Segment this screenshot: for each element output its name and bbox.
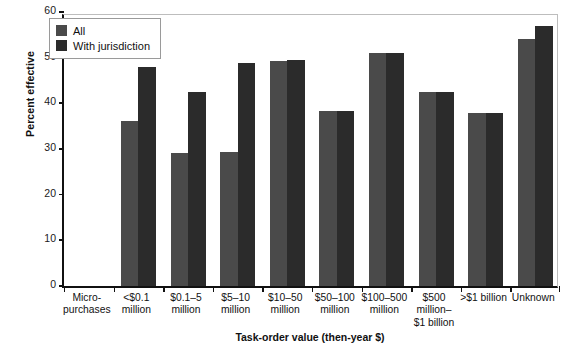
bar-group bbox=[171, 15, 206, 286]
bar-all bbox=[121, 121, 139, 286]
y-axis-tick-label: 10 bbox=[26, 232, 56, 244]
bar-group bbox=[220, 15, 255, 286]
bar-group bbox=[419, 15, 454, 286]
x-axis-title: Task-order value (then-year $) bbox=[62, 331, 558, 343]
y-axis-tick-mark bbox=[59, 11, 64, 13]
bar-all bbox=[220, 152, 238, 286]
y-axis-tick-mark bbox=[59, 148, 64, 150]
bar-all bbox=[270, 61, 288, 286]
legend-item-all: All bbox=[56, 23, 150, 38]
legend-label-all: All bbox=[73, 25, 85, 37]
bar-all bbox=[369, 53, 387, 286]
x-axis-tick-label: Unknown bbox=[502, 292, 564, 304]
legend-label-with-jurisdiction: With jurisdiction bbox=[73, 40, 150, 52]
bar-with-jurisdiction bbox=[436, 92, 454, 286]
chart-legend: All With jurisdiction bbox=[49, 18, 161, 59]
bar-with-jurisdiction bbox=[138, 67, 156, 286]
legend-swatch-all bbox=[56, 25, 67, 36]
bar-with-jurisdiction bbox=[188, 92, 206, 286]
bar-group bbox=[369, 15, 404, 286]
bar-with-jurisdiction bbox=[337, 111, 355, 286]
bar-all bbox=[171, 153, 189, 286]
y-axis-tick-mark bbox=[59, 194, 64, 196]
bar-all bbox=[419, 92, 437, 286]
bar-all bbox=[319, 111, 337, 286]
y-axis-tick-label: 60 bbox=[26, 4, 56, 16]
y-axis-tick-label: 40 bbox=[26, 95, 56, 107]
bar-chart: Percent effective 0102030405060 All With… bbox=[0, 0, 571, 349]
y-axis-tick-mark bbox=[59, 239, 64, 241]
bar-group bbox=[270, 15, 305, 286]
legend-swatch-with-jurisdiction bbox=[56, 40, 67, 51]
bar-with-jurisdiction bbox=[486, 113, 504, 286]
y-axis-tick-label: 0 bbox=[26, 278, 56, 290]
bar-with-jurisdiction bbox=[386, 53, 404, 286]
bar-with-jurisdiction bbox=[535, 26, 553, 286]
y-axis-tick-label: 30 bbox=[26, 141, 56, 153]
bar-group bbox=[319, 15, 354, 286]
bar-group bbox=[518, 15, 553, 286]
y-axis-tick-mark bbox=[59, 102, 64, 104]
bar-all bbox=[518, 39, 536, 286]
bar-with-jurisdiction bbox=[238, 63, 256, 286]
y-axis-tick-label: 20 bbox=[26, 187, 56, 199]
bar-with-jurisdiction bbox=[287, 60, 305, 286]
y-axis-title: Percent effective bbox=[24, 9, 36, 179]
bar-group bbox=[468, 15, 503, 286]
bar-all bbox=[468, 113, 486, 286]
legend-item-with-jurisdiction: With jurisdiction bbox=[56, 38, 150, 53]
